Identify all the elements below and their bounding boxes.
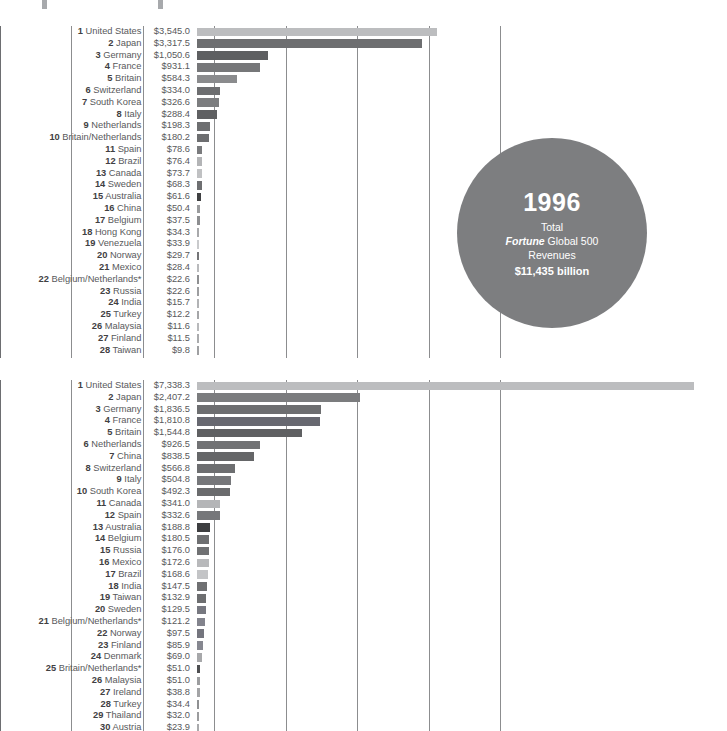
row-country: South Korea bbox=[87, 97, 144, 107]
row-country: United States bbox=[83, 380, 144, 390]
row-value: $22.6 bbox=[144, 286, 190, 298]
value-bar bbox=[197, 523, 210, 532]
row-value: $931.1 bbox=[144, 61, 190, 73]
row-value: $28.4 bbox=[144, 262, 190, 274]
row-value: $15.7 bbox=[144, 297, 190, 309]
row-label: 5 Britain $1,544.8 bbox=[0, 427, 190, 439]
row-country: Britain bbox=[112, 73, 144, 83]
row-value: $33.9 bbox=[144, 238, 190, 250]
row-value: $73.7 bbox=[144, 168, 190, 180]
chart-row: 25 Britain/Netherlands* $51.0 bbox=[0, 663, 727, 675]
row-label: 28 Turkey $34.4 bbox=[0, 699, 190, 711]
chart-row: 13 Australia $188.8 bbox=[0, 522, 727, 534]
row-rank: 23 bbox=[98, 640, 108, 650]
chart-row: 4 France $1,810.8 bbox=[0, 415, 727, 427]
row-country: Japan bbox=[114, 392, 145, 402]
chart-row: 11 Spain $78.6 bbox=[0, 144, 727, 156]
value-bar bbox=[197, 665, 200, 674]
value-bar bbox=[197, 405, 321, 414]
value-bar bbox=[197, 122, 210, 131]
value-bar bbox=[197, 264, 199, 273]
chart-row: 4 France $931.1 bbox=[0, 61, 727, 73]
chart-row: 19 Taiwan $132.9 bbox=[0, 592, 727, 604]
row-rank: 26 bbox=[92, 321, 102, 331]
row-label: 13 Australia $188.8 bbox=[0, 522, 190, 534]
row-label: 4 France $1,810.8 bbox=[0, 415, 190, 427]
row-country: Mexico bbox=[109, 557, 144, 567]
row-rank: 25 bbox=[101, 309, 111, 319]
value-bar bbox=[197, 299, 199, 308]
chart-row: 8 Italy $288.4 bbox=[0, 109, 727, 121]
row-country: Sweden bbox=[105, 179, 144, 189]
row-country: China bbox=[115, 203, 144, 213]
chart-panel-2006: 1 United States $7,338.32 Japan $2,407.2… bbox=[0, 380, 727, 728]
row-value: $12.2 bbox=[144, 309, 190, 321]
row-country: Brazil bbox=[116, 569, 144, 579]
chart-row: 3 Germany $1,836.5 bbox=[0, 404, 727, 416]
row-label: 23 Finland $85.9 bbox=[0, 640, 190, 652]
value-bar bbox=[197, 75, 237, 84]
row-country: Spain bbox=[115, 510, 144, 520]
row-rank: 12 bbox=[105, 510, 115, 520]
row-country: Belgium/Netherlands* bbox=[49, 616, 144, 626]
row-label: 14 Belgium $180.5 bbox=[0, 533, 190, 545]
chart-row: 20 Sweden $129.5 bbox=[0, 604, 727, 616]
value-bar bbox=[197, 476, 231, 485]
chart-row: 23 Finland $85.9 bbox=[0, 640, 727, 652]
row-value: $188.8 bbox=[144, 522, 190, 534]
value-bar bbox=[197, 98, 219, 107]
row-rank: 12 bbox=[105, 156, 115, 166]
chart-row: 7 South Korea $326.6 bbox=[0, 97, 727, 109]
value-bar bbox=[197, 193, 201, 202]
row-country: Switzerland bbox=[91, 463, 144, 473]
row-label: 10 South Korea $492.3 bbox=[0, 486, 190, 498]
chart-row: 1 United States $7,338.3 bbox=[0, 380, 727, 392]
row-rank: 25 bbox=[46, 663, 56, 673]
row-rank: 15 bbox=[93, 191, 103, 201]
row-value: $34.3 bbox=[144, 227, 190, 239]
row-label: 16 Mexico $172.6 bbox=[0, 557, 190, 569]
bubble-source-rest-1996: Global 500 bbox=[545, 235, 599, 247]
row-value: $172.6 bbox=[144, 557, 190, 569]
row-label: 18 Hong Kong $34.3 bbox=[0, 227, 190, 239]
chart-row: 7 China $838.5 bbox=[0, 451, 727, 463]
value-bar bbox=[197, 252, 199, 261]
row-value: $9.8 bbox=[144, 345, 190, 357]
row-value: $180.5 bbox=[144, 533, 190, 545]
row-label: 25 Turkey $12.2 bbox=[0, 309, 190, 321]
row-value: $584.3 bbox=[144, 73, 190, 85]
value-bar bbox=[197, 712, 199, 721]
row-label: 4 France $931.1 bbox=[0, 61, 190, 73]
row-country: Mexico bbox=[109, 262, 144, 272]
row-value: $1,544.8 bbox=[144, 427, 190, 439]
row-label: 7 South Korea $326.6 bbox=[0, 97, 190, 109]
value-bar bbox=[197, 547, 209, 556]
row-country: Spain bbox=[115, 144, 144, 154]
row-rank: 13 bbox=[96, 168, 106, 178]
row-rank: 20 bbox=[95, 604, 105, 614]
row-country: Finland bbox=[108, 333, 144, 343]
value-bar bbox=[197, 582, 207, 591]
value-bar bbox=[197, 570, 208, 579]
row-label: 15 Russia $176.0 bbox=[0, 545, 190, 557]
row-value: $29.7 bbox=[144, 250, 190, 262]
row-value: $61.6 bbox=[144, 191, 190, 203]
row-rank: 18 bbox=[108, 581, 118, 591]
row-country: Austria bbox=[110, 722, 144, 731]
chart-row: 27 Finland $11.5 bbox=[0, 333, 727, 345]
value-bar bbox=[197, 511, 220, 520]
row-country: Sweden bbox=[105, 604, 144, 614]
row-label: 8 Switzerland $566.8 bbox=[0, 463, 190, 475]
value-bar bbox=[197, 429, 302, 438]
row-label: 1 United States $3,545.0 bbox=[0, 26, 190, 38]
value-bar bbox=[197, 169, 202, 178]
bubble-source-italic-1996: Fortune bbox=[506, 235, 545, 247]
row-country: Taiwan bbox=[110, 592, 144, 602]
value-bar bbox=[197, 452, 254, 461]
row-label: 6 Netherlands $926.5 bbox=[0, 439, 190, 451]
row-country: Malaysia bbox=[102, 321, 144, 331]
row-label: 28 Taiwan $9.8 bbox=[0, 345, 190, 357]
row-country: Switzerland bbox=[91, 85, 144, 95]
bubble-amount-1996: $11,435 billion bbox=[515, 263, 590, 279]
row-value: $11.5 bbox=[144, 333, 190, 345]
